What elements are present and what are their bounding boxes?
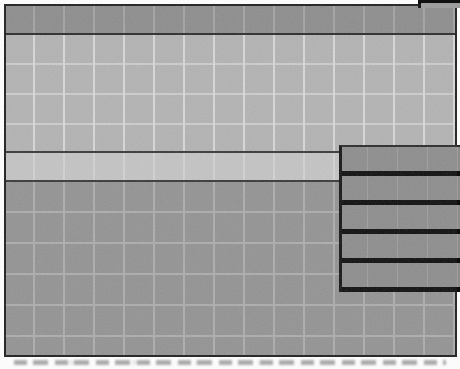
panel-row[interactable] [342, 263, 460, 292]
window-titlebar[interactable] [6, 6, 455, 35]
panel-row[interactable] [342, 234, 460, 263]
side-panel [339, 145, 460, 292]
upper-content-area[interactable] [6, 35, 455, 151]
corner-tab[interactable] [418, 0, 460, 8]
panel-row[interactable] [342, 176, 460, 205]
caption-noise-strip [14, 360, 446, 365]
panel-row[interactable] [342, 147, 460, 176]
panel-row[interactable] [342, 205, 460, 234]
page-background: { "meta": { "width_px": 460, "height_px"… [0, 0, 460, 369]
